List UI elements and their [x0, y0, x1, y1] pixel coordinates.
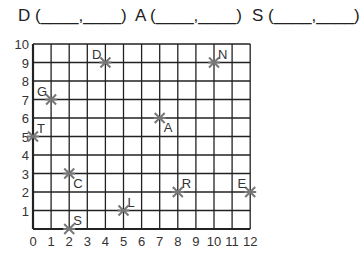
point-label: D	[92, 47, 101, 62]
point-label: A	[164, 120, 173, 135]
x-tick-label: 10	[207, 234, 221, 249]
y-tick-label: 10	[15, 37, 29, 52]
y-tick-label: 4	[22, 148, 29, 163]
x-tick-label: 11	[225, 234, 239, 249]
x-tick-label: 7	[156, 234, 163, 249]
x-tick-label: 9	[192, 234, 199, 249]
y-tick-label: 9	[22, 56, 29, 71]
x-tick-label: 8	[174, 234, 181, 249]
point-label: C	[73, 176, 82, 191]
x-tick-label: 3	[84, 234, 91, 249]
point-label: L	[128, 195, 135, 210]
point-label: T	[37, 121, 45, 136]
y-tick-label: 2	[22, 185, 29, 200]
x-tick-label: 4	[102, 234, 109, 249]
point-label: G	[37, 84, 47, 99]
x-tick-label: 12	[243, 234, 257, 249]
point-label: R	[182, 176, 191, 191]
x-tick-label: 5	[120, 234, 127, 249]
point-label: S	[73, 213, 82, 228]
x-tick-label: 2	[66, 234, 73, 249]
x-tick-label: 0	[29, 234, 36, 249]
point-label: N	[218, 47, 227, 62]
y-tick-label: 3	[22, 167, 29, 182]
x-tick-label: 1	[47, 234, 54, 249]
y-tick-label: 6	[22, 111, 29, 126]
y-tick-label: 8	[22, 74, 29, 89]
x-tick-label: 6	[138, 234, 145, 249]
point-label: E	[238, 176, 247, 191]
y-tick-label: 7	[22, 93, 29, 108]
y-tick-label: 1	[22, 204, 29, 219]
